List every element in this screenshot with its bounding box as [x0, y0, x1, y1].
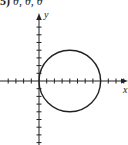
y-axis-label: y: [43, 9, 49, 20]
x-axis-arrow-icon: [121, 79, 128, 84]
polar-graph: y x: [0, 0, 128, 145]
x-axis-label: x: [122, 84, 128, 95]
y-axis-arrow-icon: [37, 13, 42, 20]
